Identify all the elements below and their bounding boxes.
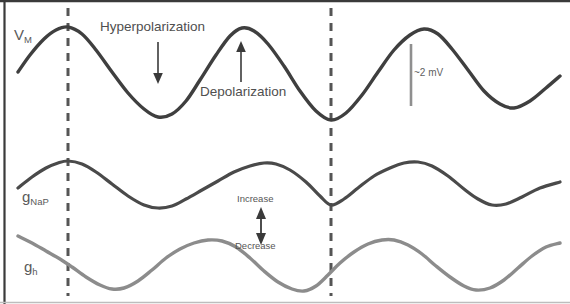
depolarization-label: Depolarization xyxy=(200,85,286,99)
membrane-oscillation-figure: VM gNaP gh Hyperpolarization Depolarizat… xyxy=(0,0,570,304)
gh-label-sub: h xyxy=(32,266,37,277)
vm-label: VM xyxy=(14,27,32,42)
hyperpolarization-label: Hyperpolarization xyxy=(100,20,205,34)
gnap-trace xyxy=(18,161,560,208)
vm-label-sub: M xyxy=(24,34,32,45)
increase-label: Increase xyxy=(237,194,273,204)
gh-label: gh xyxy=(24,259,38,274)
depolarization-arrow-icon xyxy=(236,41,246,82)
hyperpolarization-arrow-icon xyxy=(153,42,163,84)
figure-canvas xyxy=(0,0,570,304)
gh-trace xyxy=(18,236,560,291)
decrease-label: Decrease xyxy=(235,241,276,251)
gnap-label: gNaP xyxy=(22,189,49,204)
gnap-label-sub: NaP xyxy=(30,196,48,207)
scale-bar-label: ~2 mV xyxy=(414,68,443,78)
vm-label-main: V xyxy=(14,26,24,43)
vm-trace xyxy=(18,27,560,120)
